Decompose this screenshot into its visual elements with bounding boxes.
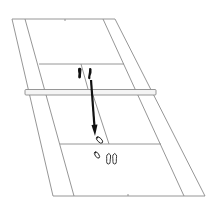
right-foot-solid-icon (88, 68, 91, 79)
right-outer-sideline (115, 19, 205, 196)
court-diagram: Perspective view of a court with net; fo… (0, 0, 213, 219)
movement-arrow (91, 80, 98, 136)
left-foot-solid-icon (78, 68, 82, 79)
court-diagram-svg (0, 0, 213, 219)
trailing-foot-toe-icon (95, 152, 96, 153)
net-bar (25, 90, 156, 96)
center-line-top (81, 64, 88, 89)
right-inner-sideline (103, 19, 184, 196)
pivot-foot-toe-icon (97, 137, 98, 138)
pivot-foot-outline-icon (95, 136, 103, 144)
end-position-feet (93, 136, 116, 164)
arrow-shaft (91, 80, 95, 127)
court-lines (12, 19, 205, 196)
center-line-bottom (93, 95, 109, 144)
right-foot-outline-icon (113, 154, 117, 165)
arrow-head-icon (92, 125, 98, 137)
left-foot-outline-icon (107, 154, 111, 165)
